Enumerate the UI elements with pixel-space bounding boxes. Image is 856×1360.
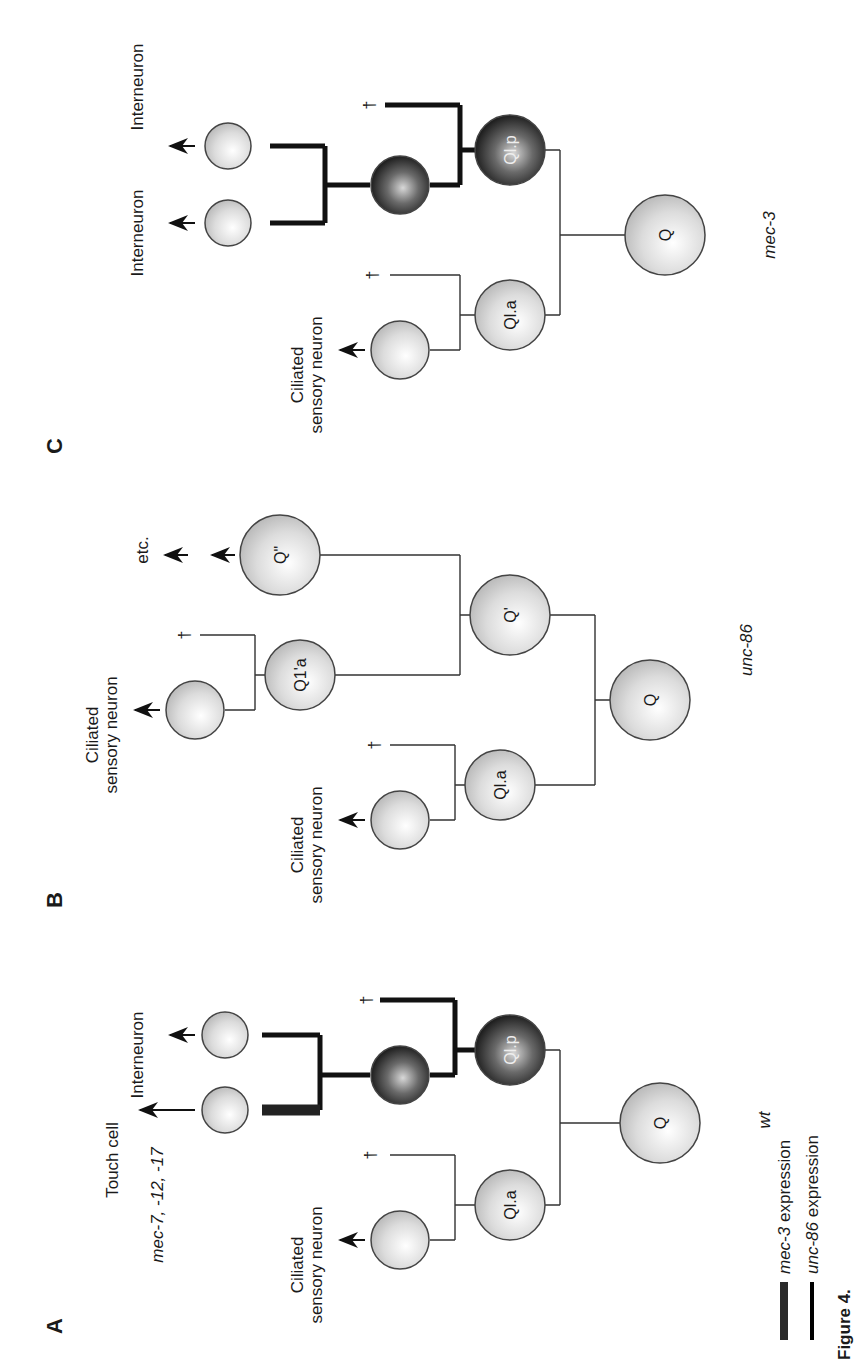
death-cross-icon: † [176, 631, 193, 640]
cell-label: Ql.p [502, 1035, 519, 1064]
cell-ciliated [166, 681, 224, 739]
death-cross-icon: † [361, 101, 378, 110]
panel-c: C Q Ql.a Ql.p † † Ciliated sensory neuro… [42, 44, 779, 454]
genotype-label: unc-86 [737, 623, 756, 676]
cell-label: Ql.a [502, 300, 519, 329]
cell-label: Ql.a [502, 1190, 519, 1219]
fate-label: Ciliated [288, 1237, 307, 1294]
death-cross-icon: † [358, 996, 375, 1005]
genotype-label: mec-3 [760, 211, 779, 259]
genotype-label: wt [755, 1110, 774, 1128]
fate-label: Ciliated [288, 347, 307, 404]
panel-a: A Q Ql.a Ql.p † † Ciliated sensory neuro… [42, 996, 774, 1334]
fate-label: Interneuron [128, 1012, 147, 1099]
fate-label: Touch cell [103, 1122, 122, 1198]
svg-text:mec-3 expression: mec-3 expression [775, 1140, 794, 1274]
legend-swatch-unc86 [810, 1282, 814, 1340]
unc86-lineage-line [262, 1035, 370, 1110]
figure-caption: Figure 4. [835, 1289, 854, 1360]
cell-interneuron [205, 200, 251, 246]
cell-label: Q [657, 229, 674, 241]
fate-label: sensory neuron [102, 676, 121, 793]
fate-label: sensory neuron [307, 1206, 326, 1323]
lineage-diagram: A Q Ql.a Ql.p † † Ciliated sensory neuro… [0, 0, 856, 1360]
legend-swatch-mec3 [780, 1282, 788, 1340]
fate-label: Ciliated [83, 707, 102, 764]
cell-label: Q [642, 694, 659, 706]
panel-b: B Q Ql.a Q' Q1'a Q" † † Ciliated sensory… [42, 515, 756, 908]
legend-gene: mec-3 [775, 1226, 794, 1274]
cell-label: Ql.p [502, 135, 519, 164]
cell-ciliated [371, 791, 429, 849]
cell-interneuron [205, 123, 251, 169]
cell-interneuron [202, 1012, 248, 1058]
legend-gene: unc-86 [803, 1221, 822, 1274]
gene-label: mec-7, -12, -17 [148, 1147, 167, 1263]
cell-label: Q1'a [292, 658, 309, 691]
lineage-line [320, 555, 470, 675]
cell-touch [202, 1087, 248, 1133]
cell-label: Q' [502, 607, 519, 623]
lineage-line [545, 150, 625, 315]
cell-dark-intermediate [371, 156, 429, 214]
lineage-line [535, 615, 610, 785]
fate-label: sensory neuron [307, 316, 326, 433]
fate-label: Interneuron [128, 44, 147, 131]
legend-text: expression [803, 1135, 822, 1217]
cell-label: Q [652, 1117, 669, 1129]
death-cross-icon: † [364, 271, 381, 280]
panel-label-c: C [42, 438, 67, 454]
unc86-lineage-line [270, 146, 370, 223]
lineage-line [545, 1050, 620, 1205]
cell-label: Ql.a [492, 770, 509, 799]
rotated-figure-canvas: A Q Ql.a Ql.p † † Ciliated sensory neuro… [0, 0, 856, 1360]
svg-text:unc-86 expression: unc-86 expression [803, 1135, 822, 1274]
death-cross-icon: † [366, 741, 383, 750]
fate-label: Ciliated [288, 817, 307, 874]
cell-ciliated [371, 321, 429, 379]
cell-dark-intermediate [371, 1046, 429, 1104]
fate-label: sensory neuron [307, 786, 326, 903]
legend: mec-3 expression unc-86 expression Figur… [775, 1135, 854, 1360]
death-cross-icon: † [362, 1151, 379, 1160]
cell-label: Q" [272, 546, 289, 564]
fate-label: etc. [133, 536, 152, 563]
fate-label: Interneuron [128, 190, 147, 277]
panel-label-a: A [42, 1318, 67, 1334]
panel-label-b: B [42, 892, 67, 908]
legend-text: expression [775, 1140, 794, 1222]
cell-ciliated [371, 1211, 429, 1269]
